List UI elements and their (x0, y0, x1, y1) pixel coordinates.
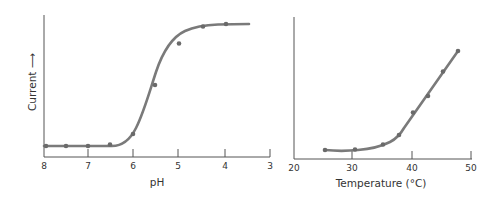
x-axis-label: Temperature (°C) (335, 177, 427, 189)
tick-label: 3 (267, 161, 273, 171)
tick-label: 50 (465, 163, 477, 173)
y-axis-label: Current ⟶ (26, 53, 38, 111)
tick-label: 30 (346, 163, 358, 173)
data-points (323, 49, 461, 153)
x-axis-label: pH (150, 176, 165, 188)
tick-label: 5 (175, 161, 181, 171)
figure: 8 7 6 5 4 3 pH Current ⟶ 20 30 40 50 (0, 0, 500, 200)
sigmoid-curve (44, 24, 249, 146)
temperature-curve (325, 51, 458, 151)
tick-label: 7 (85, 161, 91, 171)
tick-label: 6 (130, 161, 136, 171)
tick-label: 8 (41, 161, 47, 171)
tick-label: 40 (406, 163, 418, 173)
tick-label: 20 (288, 163, 300, 173)
temperature-chart: 20 30 40 50 Temperature (°C) (288, 17, 477, 189)
ph-chart: 8 7 6 5 4 3 pH Current ⟶ (26, 15, 273, 188)
tick-label: 4 (222, 161, 228, 171)
